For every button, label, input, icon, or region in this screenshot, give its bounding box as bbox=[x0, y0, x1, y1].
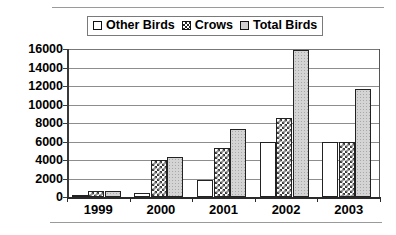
bar-2002-crows bbox=[276, 118, 292, 197]
legend-item-2: Total Birds bbox=[240, 19, 317, 32]
bar-1999-total-birds bbox=[105, 191, 121, 197]
bar-2002-other-birds bbox=[260, 142, 276, 198]
bar-2001-total-birds bbox=[230, 129, 246, 197]
bar-2000-other-birds bbox=[134, 193, 150, 197]
bar-2003-other-birds bbox=[322, 142, 338, 198]
bar-2001-other-birds bbox=[197, 180, 213, 197]
legend-swatch-gray-icon bbox=[240, 21, 249, 30]
bar-group-2000 bbox=[134, 49, 183, 197]
top-divider-rule bbox=[52, 7, 384, 8]
chart-page: Other BirdsCrowsTotal Birds 160001400012… bbox=[0, 0, 396, 235]
bar-2003-total-birds bbox=[355, 89, 371, 197]
x-axis-tick-label: 2001 bbox=[209, 203, 238, 216]
legend-label: Other Birds bbox=[106, 19, 175, 32]
x-axis-tick-mark bbox=[380, 197, 381, 202]
chart-legend: Other BirdsCrowsTotal Birds bbox=[87, 16, 323, 36]
bar-2002-total-birds bbox=[293, 50, 309, 197]
legend-item-1: Crows bbox=[182, 19, 233, 32]
y-axis-tick-marks bbox=[0, 49, 70, 197]
bar-group-2003 bbox=[322, 49, 371, 197]
x-axis-line bbox=[67, 197, 380, 199]
bar-group-2002 bbox=[260, 49, 309, 197]
legend-label: Total Birds bbox=[253, 19, 317, 32]
bar-1999-crows bbox=[88, 191, 104, 197]
legend-swatch-plain-white-icon bbox=[93, 21, 102, 30]
bar-2000-total-birds bbox=[167, 157, 183, 197]
legend-label: Crows bbox=[195, 19, 233, 32]
x-axis-tick-mark bbox=[130, 197, 131, 202]
x-axis-tick-label: 2002 bbox=[272, 203, 301, 216]
bar-2001-crows bbox=[214, 148, 230, 197]
bar-2000-crows bbox=[151, 160, 167, 197]
bar-group-2001 bbox=[197, 49, 246, 197]
legend-item-0: Other Birds bbox=[93, 19, 175, 32]
bar-groups bbox=[67, 49, 380, 197]
bar-group-1999 bbox=[72, 49, 121, 197]
legend-swatch-crosshatch-icon bbox=[182, 21, 191, 30]
bar-2003-crows bbox=[339, 142, 355, 198]
x-axis-tick-mark bbox=[317, 197, 318, 202]
x-axis-tick-mark bbox=[255, 197, 256, 202]
x-axis-tick-label: 1999 bbox=[84, 203, 113, 216]
bottom-divider-rule bbox=[50, 222, 382, 223]
x-axis-tick-mark bbox=[67, 197, 68, 202]
x-axis-tick-label: 2000 bbox=[146, 203, 175, 216]
bar-1999-other-birds bbox=[72, 195, 88, 197]
x-axis-tick-mark bbox=[192, 197, 193, 202]
x-axis-tick-label: 2003 bbox=[334, 203, 363, 216]
